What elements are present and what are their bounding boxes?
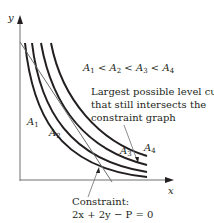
curve-label-a1: A1 <box>27 116 39 131</box>
constraint-title: Constraint: <box>72 196 129 207</box>
y-axis-arrow-icon <box>17 15 23 24</box>
x-axis-label: x <box>168 185 174 196</box>
curve-ordering: A1 < A2 < A3 < A4 <box>83 62 174 77</box>
constraint-equation: 2x + 2y − P = 0 <box>72 209 153 220</box>
y-axis-label: y <box>8 12 14 23</box>
curve-label-a3: A3 <box>120 145 132 160</box>
curve-label-a4: A4 <box>144 142 156 157</box>
constraint-pointer <box>88 170 98 197</box>
curve-label-a2: A2 <box>49 127 61 142</box>
constraint-arrow-icon <box>96 167 100 173</box>
x-axis-arrow-icon <box>165 177 174 183</box>
annotation-line-1: Largest possible level curve <box>91 86 214 97</box>
annotation-line-2: that still intersects the <box>91 99 206 110</box>
annotation-line-3: constraint graph <box>91 112 176 123</box>
